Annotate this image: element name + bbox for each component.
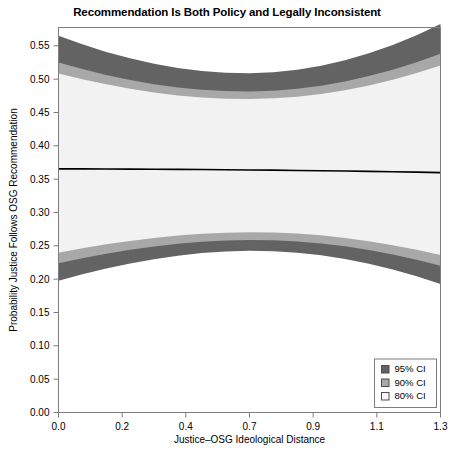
page-title: Recommendation Is Both Policy and Legall… [0,6,454,18]
legend-label-90-pct: 90% CI [395,377,426,388]
y-axis-group: 0.000.050.100.150.200.250.300.350.400.45… [30,40,58,418]
x-tick-label: 0.2 [115,421,129,432]
x-tick-label: 0.9 [306,421,320,432]
y-tick-label: 0.25 [30,240,50,251]
legend-label-95-pct: 95% CI [395,363,426,374]
y-tick-label: 0.10 [30,340,50,351]
y-axis-title: Probability Justice Follows OSG Recommen… [8,108,19,331]
legend-swatch-80-pct [382,393,390,401]
chart-plot: 0.00.20.40.70.91.11.3 0.000.050.100.150.… [0,0,454,462]
y-tick-label: 0.55 [30,40,50,51]
x-tick-label: 0.7 [243,421,257,432]
x-axis-title: Justice–OSG Ideological Distance [174,434,326,445]
x-tick-label: 0.4 [179,421,193,432]
x-tick-label: 0.0 [52,421,66,432]
legend-label-80-pct: 80% CI [395,390,426,401]
chart-page: Recommendation Is Both Policy and Legall… [0,0,454,462]
y-tick-label: 0.00 [30,407,50,418]
y-tick-label: 0.20 [30,274,50,285]
x-tick-label: 1.3 [434,421,448,432]
confidence-bands-group [59,24,441,284]
y-tick-label: 0.40 [30,140,50,151]
y-tick-label: 0.45 [30,107,50,118]
legend-swatch-90-pct [382,379,390,387]
y-tick-label: 0.30 [30,207,50,218]
legend-swatch-95-pct [382,366,390,374]
y-tick-label: 0.35 [30,174,50,185]
chart-legend: 95% CI90% CI80% CI [375,359,437,408]
y-tick-label: 0.05 [30,374,50,385]
y-tick-label: 0.50 [30,74,50,85]
x-axis-group: 0.00.20.40.70.91.11.3 [52,413,448,432]
y-tick-label: 0.15 [30,307,50,318]
x-tick-label: 1.1 [370,421,384,432]
